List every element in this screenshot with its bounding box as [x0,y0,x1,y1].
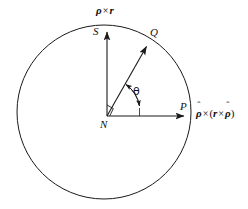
radius-to-q-line [107,47,147,117]
point-label-n: N [100,119,107,130]
vertical-axis-label: ˆρ×r [96,5,114,16]
horizontal-axis-label: ˆρ×(r×ˆρ) [196,108,234,119]
paren-close-glyph: ) [231,107,235,119]
rho-hat-glyph: ˆρ [96,5,102,16]
rho-hat-glyph: ˆρ [196,108,202,119]
main-circle [17,25,191,199]
hat-accent-icon: ˆ [226,102,229,111]
point-label-s: S [93,26,99,37]
diagram-svg [0,0,248,209]
point-label-p: P [180,101,187,112]
figure-canvas: N S P Q θ ˆρ×r ˆρ×(r×ˆρ) [0,0,248,209]
hat-accent-icon: ˆ [197,102,200,111]
hat-accent-icon: ˆ [97,0,100,9]
rho-hat-glyph: ˆρ [225,108,231,119]
theta-label: θ [133,86,140,97]
r-vector-glyph: r [109,4,113,16]
point-label-q: Q [150,27,158,38]
times-operator-icon: × [217,108,225,119]
